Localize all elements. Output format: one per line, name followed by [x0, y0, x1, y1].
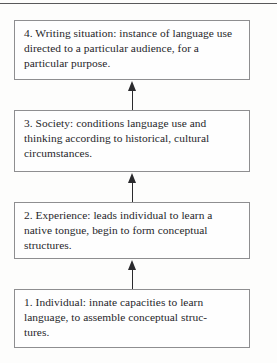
top-divider-rule: [0, 3, 277, 4]
flowchart-diagram: 4. Writing situation: instance of langua…: [0, 0, 277, 363]
node-label-individual: 1. Individual: innate capacities to lear…: [24, 295, 240, 341]
flowchart-node-writing-situation[interactable]: 4. Writing situation: instance of langua…: [14, 20, 250, 80]
up-arrow-icon-society-to-writing-situation: [126, 81, 139, 110]
arrow-shaft: [132, 89, 133, 110]
flowchart-node-individual[interactable]: 1. Individual: innate capacities to lear…: [14, 289, 250, 348]
up-arrow-icon-experience-to-society: [126, 173, 139, 202]
flowchart-node-society[interactable]: 3. Society: conditions language use and …: [14, 110, 250, 172]
up-arrow-icon-individual-to-experience: [126, 260, 139, 289]
node-label-society: 3. Society: conditions language use and …: [24, 116, 240, 162]
node-label-writing-situation: 4. Writing situation: instance of langua…: [24, 26, 240, 72]
arrow-shaft: [132, 181, 133, 202]
flowchart-node-experience[interactable]: 2. Experience: leads individual to learn…: [14, 202, 250, 259]
arrow-shaft: [132, 268, 133, 289]
node-label-experience: 2. Experience: leads individual to learn…: [24, 208, 240, 254]
